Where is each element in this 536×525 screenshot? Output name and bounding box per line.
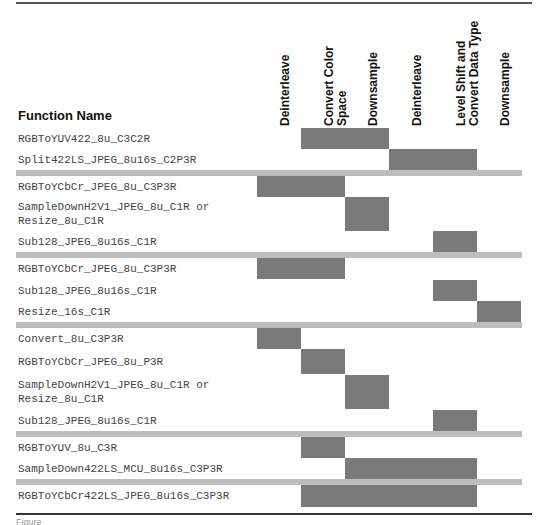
stage-bar (257, 328, 301, 349)
function-name: Resize_16s_C1R (18, 305, 110, 319)
column-header: Downsample (477, 16, 521, 126)
function-name: Sub128_JPEG_8u16s_C1R (18, 235, 157, 249)
stage-bar (301, 128, 389, 149)
function-name: RGBToYCbCr_JPEG_8u_C3P3R (18, 180, 176, 194)
function-name: RGBToYUV422_8u_C3C2R (18, 132, 150, 146)
group-separator (16, 431, 522, 437)
stage-bar (433, 410, 477, 431)
stage-bar (345, 197, 389, 231)
figure-caption: Figure (16, 517, 42, 525)
top-rule (16, 2, 532, 4)
function-name: RGBToYCbCr_JPEG_8u_C3P3R (18, 262, 176, 276)
function-name: Split422LS_JPEG_8u16s_C2P3R (18, 153, 196, 167)
stage-bar (301, 349, 345, 374)
stage-bar (433, 231, 477, 252)
function-name: SampleDownH2V1_JPEG_8u_C1R or Resize_8u_… (18, 200, 209, 228)
function-name: Convert_8u_C3P3R (18, 332, 124, 346)
stage-bar (257, 176, 345, 197)
function-name: Sub128_JPEG_8u16s_C1R (18, 414, 157, 428)
column-header-label: Deinterleave (411, 55, 424, 126)
column-header-label: Deinterleave (279, 55, 292, 126)
function-name: RGBToYUV_8u_C3R (18, 441, 117, 455)
stage-bar (301, 485, 477, 507)
function-name: RGBToYCbCr_JPEG_8u_P3R (18, 355, 163, 369)
stage-bar (257, 258, 345, 279)
column-header: Level Shift and Convert Data Type (433, 16, 477, 126)
column-header: Deinterleave (257, 16, 301, 126)
stage-bar (389, 149, 477, 170)
function-name: RGBToYCbCr422LS_JPEG_8u16s_C3P3R (18, 489, 229, 503)
stage-bar (477, 301, 521, 322)
column-header-label: Downsample (367, 52, 380, 126)
column-header: Downsample (345, 16, 389, 126)
stage-bar (345, 375, 389, 409)
stage-bar (301, 437, 345, 458)
bottom-rule (16, 513, 532, 515)
column-header: Convert Color Space (301, 16, 345, 126)
column-header-label: Downsample (499, 52, 512, 126)
function-name: SampleDown422LS_MCU_8u16s_C3P3R (18, 462, 223, 476)
function-name: Sub128_JPEG_8u16s_C1R (18, 284, 157, 298)
stage-bar (433, 280, 477, 301)
stage-bar (345, 458, 477, 479)
function-name-header: Function Name (18, 108, 112, 123)
function-name: SampleDownH2V1_JPEG_8u_C1R or Resize_8u_… (18, 378, 209, 406)
column-header: Deinterleave (389, 16, 433, 126)
